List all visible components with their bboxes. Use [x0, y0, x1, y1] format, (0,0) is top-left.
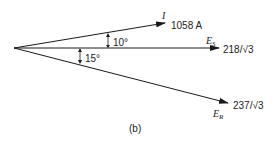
angle-15-indicator: [78, 49, 82, 65]
phasor-er-line: [14, 48, 228, 103]
phasor-current-symbol: I: [161, 10, 166, 21]
phasor-es-symbol: ES: [205, 35, 216, 48]
angle-15-label: 15°: [85, 53, 100, 64]
phasor-er-value: 237/√3: [233, 100, 264, 111]
angle-10-indicator: [106, 33, 110, 48]
angle-10-label: 10°: [113, 37, 128, 48]
figure-caption: (b): [129, 123, 141, 134]
phasor-diagram: 10° 15° I 1058 A ES 218/√3 237/√3 ER (b): [0, 0, 280, 144]
phasor-current-line: [14, 23, 165, 48]
phasor-er-symbol: ER: [212, 108, 224, 121]
phasor-current-value: 1058 A: [171, 20, 202, 31]
phasor-es-value: 218/√3: [223, 44, 254, 55]
